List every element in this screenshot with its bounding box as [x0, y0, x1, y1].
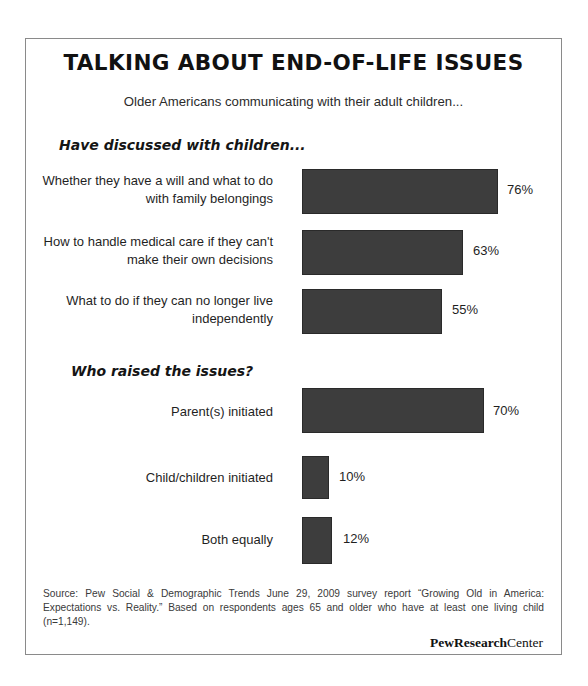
- source-note: Source: Pew Social & Demographic Trends …: [43, 587, 544, 630]
- page-title: TALKING ABOUT END-OF-LIFE ISSUES: [26, 50, 561, 75]
- bar-label: Both equally: [23, 531, 273, 549]
- chart-frame: TALKING ABOUT END-OF-LIFE ISSUES Older A…: [25, 38, 562, 655]
- section-heading-discussed: Have discussed with children...: [59, 137, 306, 153]
- infographic-page: TALKING ABOUT END-OF-LIFE ISSUES Older A…: [0, 0, 588, 686]
- bar: [302, 388, 484, 433]
- bar-label: Child/children initiated: [23, 469, 273, 487]
- logo-regular-text: Center: [507, 635, 543, 650]
- bar-container: [302, 456, 329, 499]
- bar-label: Whether they have a will and what to do …: [23, 172, 273, 207]
- bar-label: How to handle medical care if they can't…: [23, 233, 273, 268]
- bar-container: [302, 388, 484, 433]
- bar: [302, 517, 332, 564]
- bar: [302, 289, 442, 334]
- bar-value-label: 70%: [493, 403, 519, 418]
- bar-container: [302, 230, 463, 275]
- bar-container: [302, 517, 332, 564]
- bar-label: What to do if they can no longer live in…: [23, 292, 273, 327]
- bar: [302, 230, 463, 275]
- section-heading-who-raised: Who raised the issues?: [71, 363, 253, 379]
- bar-label: Parent(s) initiated: [23, 403, 273, 421]
- bar-value-label: 12%: [343, 531, 369, 546]
- subtitle: Older Americans communicating with their…: [26, 94, 561, 109]
- bar: [302, 169, 498, 214]
- bar: [302, 456, 329, 499]
- bar-value-label: 10%: [339, 469, 365, 484]
- bar-container: [302, 169, 498, 214]
- bar-value-label: 63%: [473, 243, 499, 258]
- bar-value-label: 76%: [507, 182, 533, 197]
- pew-research-center-logo: PewResearchCenter: [430, 635, 543, 651]
- logo-bold-text: PewResearch: [430, 635, 507, 650]
- bar-container: [302, 289, 442, 334]
- bar-value-label: 55%: [452, 302, 478, 317]
